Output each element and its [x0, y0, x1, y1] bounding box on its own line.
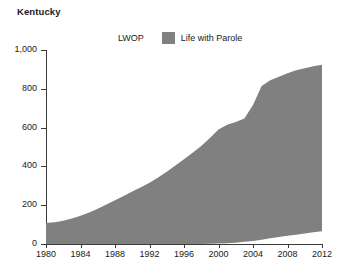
y-axis-tick-label: 600 — [22, 122, 37, 133]
legend-item-life-with-parole: Life with Parole — [162, 32, 243, 44]
area-path-total — [46, 65, 322, 244]
x-axis-tick-mark — [150, 244, 151, 248]
y-axis-tick-label: 800 — [22, 83, 37, 94]
x-axis-tick-mark — [184, 244, 185, 248]
x-axis-tick-label: 2012 — [312, 249, 332, 260]
x-axis-tick-label: 2004 — [243, 249, 263, 260]
y-axis-tick-mark — [41, 205, 46, 206]
x-axis-tick-label: 1984 — [70, 249, 90, 260]
y-axis-tick-label: 0 — [32, 238, 37, 249]
chart-legend: LWOP Life with Parole — [118, 31, 242, 45]
legend-item-lwop: LWOP — [118, 33, 144, 44]
x-axis-tick-label: 1992 — [139, 249, 159, 260]
x-axis-tick-mark — [322, 244, 323, 248]
chart-figure: Kentucky LWOP Life with Parole 020040060… — [0, 0, 341, 276]
x-axis-tick-label: 1980 — [36, 249, 56, 260]
chart-title: Kentucky — [17, 6, 61, 18]
y-axis-tick-label: 400 — [22, 160, 37, 171]
x-axis-tick-mark — [115, 244, 116, 248]
legend-label-life-with-parole: Life with Parole — [181, 33, 243, 44]
y-axis-tick-mark — [41, 50, 46, 51]
x-axis-tick-mark — [219, 244, 220, 248]
x-axis-tick-label: 1988 — [105, 249, 125, 260]
x-axis-tick-label: 2000 — [208, 249, 228, 260]
x-axis-tick-label: 1996 — [174, 249, 194, 260]
legend-swatch-life-with-parole — [162, 32, 175, 44]
x-axis-tick-label: 2008 — [277, 249, 297, 260]
stacked-area-plot — [46, 50, 322, 244]
x-axis-tick-mark — [81, 244, 82, 248]
y-axis-tick-mark — [41, 89, 46, 90]
y-axis-tick-mark — [41, 128, 46, 129]
plot-area: 02004006008001,000 198019841988199219962… — [46, 50, 322, 244]
x-axis-tick-mark — [253, 244, 254, 248]
x-axis-tick-mark — [46, 244, 47, 248]
y-axis-tick-label: 200 — [22, 199, 37, 210]
y-axis-tick-mark — [41, 166, 46, 167]
legend-label-lwop: LWOP — [118, 33, 144, 44]
x-axis-tick-mark — [288, 244, 289, 248]
y-axis-tick-label: 1,000 — [14, 44, 37, 55]
